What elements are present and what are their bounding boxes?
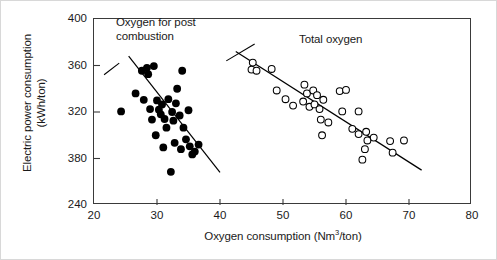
data-point [387,138,394,145]
x-axis-title-prefix: Oxygen consumption (Nm [204,230,335,242]
data-point [180,124,188,132]
data-point [325,119,332,126]
y-axis-title: Electric power consumption (kWh/ton) [20,8,48,198]
plot-canvas [94,19,472,205]
data-point [253,67,260,74]
y-tick-label: 380 [68,153,87,165]
data-point [146,105,154,113]
data-point [117,108,125,116]
data-point [336,88,343,95]
data-point [359,156,366,163]
data-point [185,106,193,114]
annotation-oxygen-post-combustion: Oxygen for post combustion [116,16,196,43]
data-point [349,125,356,132]
data-point [370,134,377,141]
y-axis-title-line2: (kWh/ton) [34,8,48,198]
data-point [273,87,280,94]
data-point [319,132,326,139]
data-point [355,108,362,115]
data-point [282,96,289,103]
data-point [168,108,176,116]
data-point [300,98,307,105]
data-point [159,144,167,152]
data-point [150,62,158,70]
x-tick-label: 30 [151,210,164,222]
data-point [132,90,140,98]
data-point [144,70,152,78]
x-axis-title: Oxygen consumption (Nm3/ton) [93,230,473,242]
data-point [355,131,362,138]
y-tick-label: 400 [68,13,87,25]
data-point [178,67,186,75]
y-tick-label: 240 [68,199,87,211]
annotation-leader-line [226,44,254,61]
data-point [304,90,311,97]
data-point [401,137,408,144]
data-point [249,59,256,66]
data-point [364,137,371,144]
data-point [164,95,172,103]
figure-scatter-plot: Electric power consumption (kWh/ton) Oxy… [0,0,497,260]
data-point [172,99,180,107]
plot-area: Oxygen for post combustion Total oxygen … [93,18,471,204]
data-point [140,96,148,104]
data-point [177,145,185,153]
data-point [158,101,166,109]
x-tick-label: 50 [277,210,290,222]
data-point [339,108,346,115]
x-tick-label: 40 [214,210,227,222]
x-axis-title-suffix: /ton) [339,230,362,242]
x-tick-label: 80 [466,210,479,222]
data-point [343,87,350,94]
annotation-leader-line [104,63,119,75]
annotation-black-line1: Oxygen for post [116,16,196,30]
x-tick-label: 60 [340,210,353,222]
data-point [316,106,323,113]
data-point [191,148,199,156]
data-point [148,116,156,124]
data-point [314,92,321,99]
data-point [161,115,169,123]
data-point [182,135,190,143]
data-point [290,102,297,109]
data-point [268,66,275,73]
data-point [169,117,177,125]
data-point [320,96,327,103]
data-point [362,146,369,153]
data-point [301,81,308,88]
data-point [195,141,203,149]
annotation-total-oxygen: Total oxygen [299,33,362,47]
y-axis-title-line1: Electric power consumption [21,34,33,172]
x-tick-label: 70 [403,210,416,222]
annotation-black-line2: combustion [116,30,196,44]
data-point [317,116,324,123]
data-point [176,112,184,120]
data-point [163,124,171,132]
data-point [389,149,396,156]
y-tick-label: 360 [68,60,87,72]
x-tick-label: 20 [88,210,101,222]
data-point [171,139,179,147]
data-point [363,128,370,135]
data-point [152,131,160,139]
data-point [173,85,181,93]
y-tick-label: 320 [68,106,87,118]
data-point [167,168,175,176]
